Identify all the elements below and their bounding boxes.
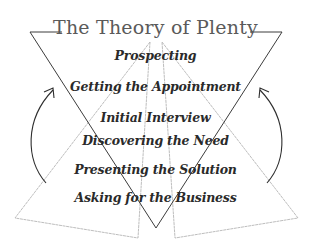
step-presenting-solution: Presenting the Solution bbox=[0, 162, 311, 177]
step-getting-appointment: Getting the Appointment bbox=[0, 79, 311, 94]
step-asking-business: Asking for the Business bbox=[0, 190, 311, 205]
step-discovering-need: Discovering the Need bbox=[0, 133, 311, 148]
step-initial-interview: Initial Interview bbox=[0, 110, 311, 125]
diagram-title: The Theory of Plenty bbox=[0, 16, 311, 38]
step-prospecting: Prospecting bbox=[0, 48, 311, 63]
